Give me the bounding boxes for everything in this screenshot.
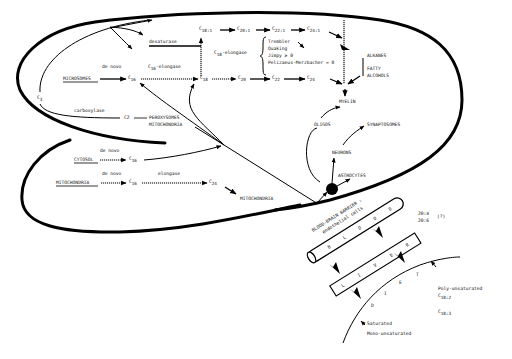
astrocytes-label: ASTROCYTES — [338, 173, 366, 178]
c16-microsomes: C16 — [128, 75, 136, 82]
svg-text:T: T — [416, 272, 419, 277]
c18-3-label: C18:3 — [438, 309, 452, 316]
svg-text:D: D — [371, 303, 374, 308]
mono-unsaturated-label: Mono-unsaturated — [367, 331, 411, 336]
neurons-label: NEURONS — [332, 150, 352, 155]
mutant-quaking: Quaking — [268, 46, 288, 51]
mitochondria-precursor-label: MITOCHONDRIA — [149, 122, 182, 127]
mitochondria-source-label[interactable]: MITOCHONDRIA — [56, 180, 89, 185]
c20-1-node: C20:1 — [237, 26, 251, 33]
c16-mitochondria: C16 — [129, 179, 137, 186]
synaptosomes-label: SYNAPTOSOMES — [367, 122, 400, 127]
c16-cytosol: C16 — [129, 156, 137, 163]
c18-1-node: C18:1 — [199, 26, 213, 33]
alcohols-label: ALCOHOLS — [367, 73, 389, 78]
c24-mitochondria: C24 — [209, 179, 217, 186]
peroxysomes-label: PEROXYSOMES — [149, 115, 180, 120]
de-novo-mitochondria: de novo — [102, 171, 122, 176]
mitochondria-target-label: MITOCHONDRIA — [240, 196, 273, 201]
mutant-jimpy: Jimpy ≥ 0 — [268, 53, 293, 58]
fatty-acid-brain-metabolism-diagram: C3 carboxylase C2 PEROXYSOMES MITOCHONDR… — [0, 0, 512, 359]
c18-node: C18 — [200, 75, 208, 82]
c24-node: C24 — [307, 75, 315, 82]
poly-unsaturated-label: Poly-unsaturated — [438, 286, 482, 291]
c22-node: C22 — [272, 75, 280, 82]
saturated-label: Saturated — [367, 321, 392, 326]
pufa-question: (?) — [437, 214, 445, 219]
svg-text:E: E — [399, 280, 402, 285]
cytosol-label[interactable]: CYTOSOL — [74, 157, 94, 162]
carboxylase-label: carboxylase — [74, 108, 105, 113]
svg-text:I: I — [384, 291, 387, 296]
desaturase-label: desaturase — [149, 39, 177, 44]
c3-label: C3 — [37, 95, 43, 102]
pufa-20-4: 20:4 — [418, 211, 429, 216]
bbb-entry-node — [326, 183, 338, 195]
mutant-trembler: Trembler — [268, 39, 290, 44]
oligos-label: OLIGOS — [314, 122, 331, 127]
c22-1-node: C22:1 — [272, 26, 286, 33]
c18-2-label: C18:2 — [438, 293, 452, 300]
alkanes-label: ALKANES — [367, 53, 387, 58]
c16-elongase-label: C16-elongase — [148, 64, 181, 71]
fatty-label: FATTY — [367, 66, 381, 71]
mutant-pelizaeus-merzbacher: Pelizaeus-Merzbacher = 0 — [268, 60, 335, 65]
microsomes-label[interactable]: MICROSOMES — [63, 76, 91, 81]
elongase-mitochondria-label: elongase — [158, 171, 180, 176]
c24-1-node: C24:1 — [307, 26, 321, 33]
de-novo-microsomes: de novo — [102, 64, 122, 69]
de-novo-cytosol: de novo — [100, 148, 120, 153]
c2-label: C2 — [124, 115, 130, 120]
c20-node: C20 — [238, 75, 246, 82]
c18-elongase-label: C18-elongase — [214, 50, 247, 57]
pufa-20-6: 20:6 — [418, 218, 429, 223]
myelin-label: MYELIN — [339, 99, 356, 104]
